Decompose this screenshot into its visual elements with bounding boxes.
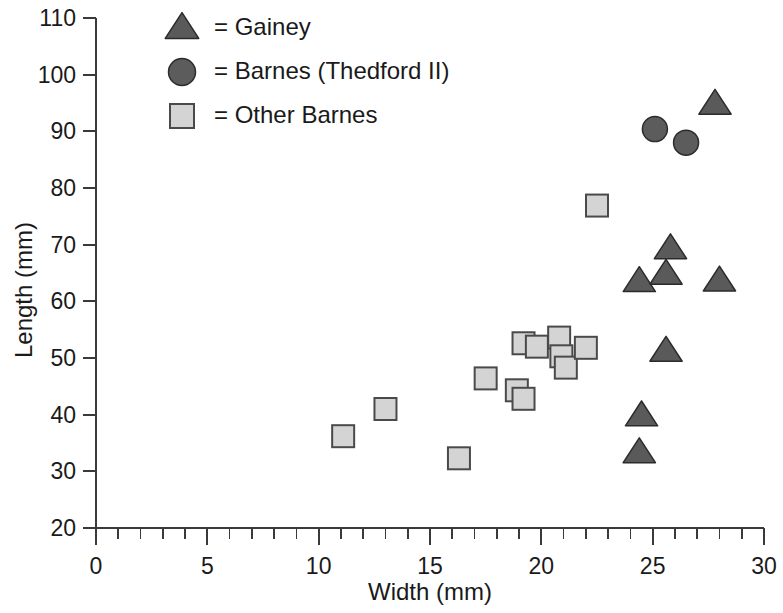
y-tick-label: 30: [50, 458, 76, 484]
legend-item-label: = Barnes (Thedford II): [214, 57, 449, 84]
x-tick-label: 5: [201, 553, 214, 579]
triangle-data-point: [703, 266, 735, 291]
square-data-point: [475, 367, 497, 389]
series-other-barnes: [332, 195, 608, 470]
scatter-plot-figure: 2030405060708090100110 051015202530 Leng…: [0, 0, 783, 613]
x-tick-label: 30: [751, 553, 777, 579]
triangle-marker-icon: [165, 13, 198, 39]
square-data-point: [448, 447, 470, 469]
y-tick-label: 50: [50, 345, 76, 371]
square-data-point: [555, 357, 577, 379]
y-tick-label: 110: [39, 5, 76, 31]
y-axis-tick-labels: 2030405060708090100110: [38, 5, 76, 541]
y-tick-label: 100: [38, 62, 76, 88]
legend-item-label: = Gainey: [214, 13, 311, 40]
x-tick-label: 0: [90, 553, 103, 579]
square-data-point: [526, 336, 548, 358]
legend-item: = Gainey: [165, 13, 310, 41]
triangle-data-point: [650, 336, 682, 361]
x-axis-ticks: [96, 528, 764, 545]
data-point-layer: [332, 89, 735, 469]
square-data-point: [332, 425, 354, 447]
circle-marker-icon: [169, 59, 196, 86]
triangle-data-point: [623, 267, 655, 292]
x-axis-tick-labels: 051015202530: [90, 553, 777, 579]
circle-data-point: [674, 130, 699, 155]
circle-data-point: [642, 117, 667, 142]
triangle-data-point: [625, 401, 657, 426]
triangle-data-point: [654, 234, 686, 259]
square-marker-icon: [170, 104, 194, 128]
square-data-point: [374, 398, 396, 420]
square-data-point: [513, 388, 535, 410]
legend-item: = Barnes (Thedford II): [169, 57, 450, 85]
legend-item: = Other Barnes: [170, 101, 377, 128]
series-barnes-thedford-ii: [642, 117, 698, 156]
square-data-point: [586, 195, 608, 217]
legend-item-label: = Other Barnes: [214, 101, 377, 128]
y-tick-label: 20: [50, 515, 76, 541]
y-tick-label: 80: [50, 175, 76, 201]
y-tick-label: 90: [50, 118, 76, 144]
x-tick-label: 20: [529, 553, 555, 579]
x-axis-title: Width (mm): [368, 578, 492, 605]
legend: = Gainey= Barnes (Thedford II)= Other Ba…: [165, 13, 449, 129]
y-tick-label: 40: [50, 402, 76, 428]
y-tick-label: 70: [50, 232, 76, 258]
x-tick-label: 15: [417, 553, 443, 579]
x-tick-label: 10: [306, 553, 332, 579]
plot-canvas: 2030405060708090100110 051015202530 Leng…: [0, 0, 783, 613]
y-axis-ticks: [83, 18, 96, 528]
triangle-data-point: [699, 89, 731, 114]
triangle-data-point: [623, 438, 655, 463]
triangle-data-point: [650, 259, 682, 284]
x-tick-label: 25: [640, 553, 666, 579]
square-data-point: [575, 337, 597, 359]
y-axis-title: Length (mm): [10, 222, 37, 358]
y-tick-label: 60: [50, 288, 76, 314]
